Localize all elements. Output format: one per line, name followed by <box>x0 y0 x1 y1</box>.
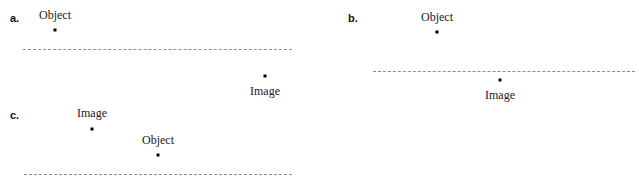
image-dot-c <box>91 128 94 131</box>
panel-label-c: c. <box>10 110 19 121</box>
image-label-c: Image <box>77 107 107 119</box>
panel-c: c.ImageObject <box>0 0 639 189</box>
optical-axis-c <box>24 174 292 175</box>
object-dot-c <box>157 154 160 157</box>
object-label-c: Object <box>142 134 174 146</box>
optics-figure: a.ObjectImageb.ObjectImagec.ImageObject <box>0 0 639 189</box>
